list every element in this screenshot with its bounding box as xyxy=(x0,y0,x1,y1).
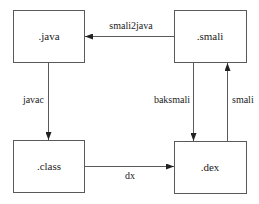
edge-class-to-dex: dx xyxy=(85,167,174,182)
edge-dex-to-smali: smali xyxy=(228,63,254,141)
dx-label: dx xyxy=(125,170,135,181)
edge-smali-to-java: smali2java xyxy=(85,20,174,37)
smali-edge-label: smali xyxy=(232,94,254,105)
conversion-diagram: .java .smali .class .dex smali2java java… xyxy=(0,0,259,204)
node-dex: .dex xyxy=(175,142,247,194)
edge-smali-to-dex: baksmali xyxy=(154,63,194,141)
dex-label: .dex xyxy=(201,161,220,173)
node-class: .class xyxy=(14,141,85,193)
javac-label: javac xyxy=(22,94,45,105)
smali2java-label: smali2java xyxy=(109,20,153,31)
class-label: .class xyxy=(37,160,61,172)
java-label: .java xyxy=(38,30,59,42)
smali-label: .smali xyxy=(197,30,224,42)
edge-java-to-class: javac xyxy=(22,63,49,140)
baksmali-label: baksmali xyxy=(154,94,190,105)
node-java: .java xyxy=(14,11,85,63)
node-smali: .smali xyxy=(175,11,247,63)
